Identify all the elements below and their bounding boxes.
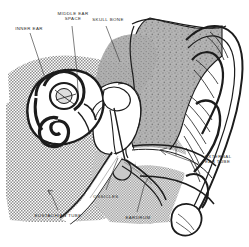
label-eardrum: EARDRUM <box>117 215 159 220</box>
ear-anatomy-illustration <box>0 0 249 247</box>
label-skull-bone: SKULL BONE <box>84 17 132 22</box>
label-eustachian-tube: EUSTACHIAN TUBE <box>22 213 94 218</box>
label-inner-ear: INNER EAR <box>6 26 52 31</box>
ear-anatomy-figure: INNER EAR MIDDLE EAR SPACE SKULL BONE EX… <box>0 0 249 247</box>
label-external-ear-tube: EXTERNAL EAR TUBE <box>205 154 249 165</box>
label-ossicles: OSSICLES <box>83 194 129 199</box>
